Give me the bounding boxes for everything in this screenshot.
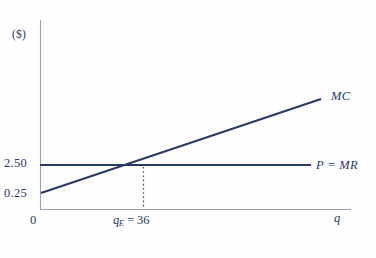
origin-label: 0 [30,214,36,227]
equilibrium-subscript: E [119,218,124,228]
equilibrium-quantity-annotation: qE=36 [113,214,149,227]
chart-canvas [0,0,376,258]
equilibrium-value: 36 [137,213,150,227]
y-tick-label-2-50: 2.50 [4,157,27,170]
mc-curve-label: MC [331,90,350,103]
equilibrium-equals-sign: = [124,213,136,227]
y-tick-label-0-25: 0.25 [4,187,27,200]
pmr-curve-label: P = MR [316,159,358,172]
y-axis-unit-label: ($) [12,29,26,41]
economics-chart-figure: ($) 2.50 0.25 0 q qE=36 MC P = MR [0,0,376,258]
figure-background [0,0,376,258]
x-axis-label: q [334,212,340,225]
